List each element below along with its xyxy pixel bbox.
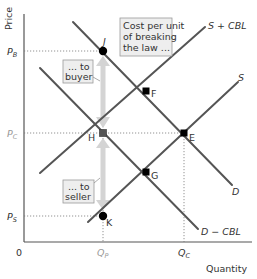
chart: Price Quantity 0 S + CBL S D D − CBL J F	[0, 0, 257, 279]
svg-text:Cost per unit: Cost per unit	[123, 20, 185, 31]
supply-plus-cbl-label: S + CBL	[208, 20, 246, 31]
supply-line	[88, 82, 238, 222]
svg-text:the law ...: the law ...	[123, 42, 170, 53]
label-h: H	[88, 132, 95, 143]
origin-label: 0	[16, 247, 22, 258]
tick-qc: QC	[178, 247, 190, 260]
point-f	[143, 88, 150, 95]
tick-qp: QP	[97, 247, 108, 260]
point-h	[100, 130, 107, 137]
svg-text:of breaking: of breaking	[123, 31, 177, 42]
tick-pb: PB	[7, 46, 18, 59]
tick-ps: PS	[7, 211, 17, 224]
tick-pc: PC	[7, 128, 18, 141]
label-j: J	[101, 36, 106, 47]
buyer-annotation: ... to buyer	[63, 60, 100, 83]
supply-label: S	[238, 72, 244, 83]
svg-text:seller: seller	[65, 191, 91, 202]
y-axis-label: Price	[3, 7, 14, 30]
svg-text:buyer: buyer	[65, 71, 93, 82]
seller-annotation: ... to seller	[63, 178, 100, 203]
label-e: E	[189, 132, 195, 143]
label-k: K	[106, 217, 113, 228]
point-j	[99, 47, 107, 55]
label-g: G	[151, 170, 158, 181]
point-g	[143, 169, 150, 176]
x-axis-label: Quantity	[206, 263, 247, 274]
point-e	[181, 130, 188, 137]
demand-minus-cbl-line	[40, 68, 198, 229]
label-f: F	[151, 88, 156, 99]
demand-label: D	[232, 186, 239, 197]
seller-arrow	[96, 138, 110, 210]
cost-annotation: Cost per unit of breaking the law ...	[120, 18, 185, 56]
demand-minus-cbl-label: D − CBL	[201, 226, 241, 237]
